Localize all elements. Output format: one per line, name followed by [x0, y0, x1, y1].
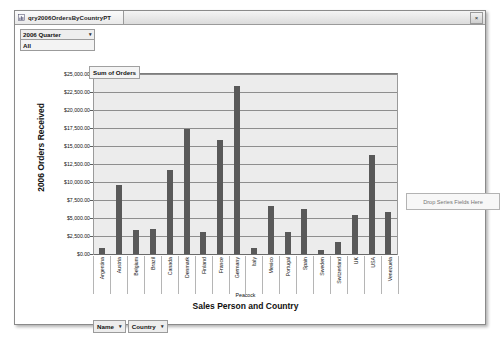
x-axis-category-label: Portugal — [285, 257, 291, 276]
bar[interactable] — [99, 248, 105, 254]
document-tab-label: qry2006OrdersByCountryPT — [28, 15, 111, 21]
x-axis-category-label: Austria — [116, 257, 122, 273]
pivotchart-icon — [18, 14, 25, 21]
x-axis-category-cell: Sweden — [314, 256, 331, 294]
y-axis-tick-label: $10,000.00 — [64, 179, 90, 185]
x-axis-category-cell: Venezuela — [382, 256, 399, 294]
bar[interactable] — [150, 229, 156, 254]
bar[interactable] — [234, 86, 240, 254]
bar-slot — [144, 74, 161, 254]
bar-series — [94, 74, 397, 254]
field-button-country[interactable]: Country▾ — [128, 320, 168, 333]
bar-slot — [195, 74, 212, 254]
bar[interactable] — [133, 230, 139, 254]
y-axis-tick-label: $12,500.00 — [64, 161, 90, 167]
x-axis-category-label: UK — [353, 257, 359, 264]
bar[interactable] — [335, 242, 341, 254]
x-axis-category-cell: Canada — [162, 256, 179, 294]
bar-slot — [94, 74, 111, 254]
x-axis-category-cell: France — [213, 256, 230, 294]
bar[interactable] — [116, 185, 122, 254]
bar[interactable] — [369, 155, 375, 254]
bar-slot — [229, 74, 246, 254]
chevron-down-icon[interactable]: ▾ — [159, 324, 164, 329]
bar-slot — [330, 74, 347, 254]
x-axis-category-label: Canada — [167, 257, 173, 275]
filter-field-header[interactable]: 2006 Quarter ▾ — [20, 29, 95, 40]
x-axis-category-label: Finland — [201, 257, 207, 274]
y-axis-tick-label: $7,500.00 — [67, 197, 90, 203]
filter-field-value[interactable]: All — [20, 40, 95, 51]
series-legend-title: Sum of Orders — [89, 66, 140, 79]
field-button-label: Name — [97, 323, 114, 330]
y-axis-tick-label: $22,500.00 — [64, 89, 90, 95]
bar[interactable] — [167, 170, 173, 254]
bar[interactable] — [200, 232, 206, 254]
x-axis-category-label: France — [218, 257, 224, 273]
x-axis-category-label: Brazil — [150, 257, 156, 270]
y-axis-tick-label: $5,000.00 — [67, 215, 90, 221]
x-axis-category-cell: Switzerland — [331, 256, 348, 294]
bar[interactable] — [285, 232, 291, 254]
bar-slot — [363, 74, 380, 254]
x-axis-category-cell: Mexico — [263, 256, 280, 294]
y-axis-tick-label: $0.00 — [77, 251, 90, 257]
bar-slot — [128, 74, 145, 254]
bar-slot — [380, 74, 397, 254]
document-tab[interactable]: qry2006OrdersByCountryPT — [15, 11, 124, 24]
y-axis-tick-label: $20,000.00 — [64, 107, 90, 113]
bar[interactable] — [184, 129, 190, 254]
x-axis-category-cell: UK — [348, 256, 365, 294]
y-axis-title: 2006 Orders Received — [36, 103, 50, 192]
bar-slot — [178, 74, 195, 254]
x-axis-category-cell: Argentina — [94, 256, 111, 294]
field-buttons-bar: Name▾Country▾ — [93, 320, 168, 333]
gridline — [94, 254, 397, 255]
pivotchart-window: qry2006OrdersByCountryPT × 2006 Quarter … — [14, 10, 486, 325]
x-axis-category-label: USA — [370, 257, 376, 268]
x-axis-group-label: Peacock — [93, 292, 398, 298]
bar[interactable] — [385, 212, 391, 254]
x-axis-category-label: Denmark — [184, 257, 190, 278]
x-axis-category-cell: Denmark — [179, 256, 196, 294]
bar[interactable] — [251, 248, 257, 254]
plot-background — [93, 73, 398, 255]
bar[interactable] — [318, 250, 324, 254]
y-axis-tick-label: $15,000.00 — [64, 143, 90, 149]
bar-slot — [262, 74, 279, 254]
x-axis-title: Sales Person and Country — [93, 301, 398, 311]
bar-slot — [279, 74, 296, 254]
x-axis-category-cell: USA — [365, 256, 382, 294]
y-axis-tick-label: $17,500.00 — [64, 125, 90, 131]
y-axis-tick-label: $2,500.00 — [67, 233, 90, 239]
x-axis-category-cell: Brazil — [145, 256, 162, 294]
bar-slot — [161, 74, 178, 254]
x-axis-category-cell: Belgium — [128, 256, 145, 294]
field-button-name[interactable]: Name▾ — [93, 320, 126, 333]
field-button-label: Country — [132, 323, 156, 330]
bar-slot — [313, 74, 330, 254]
bar-slot — [346, 74, 363, 254]
x-axis-category-cell: Austria — [111, 256, 128, 294]
plot-area[interactable] — [93, 73, 398, 255]
bar-slot — [245, 74, 262, 254]
x-axis-category-label: Mexico — [268, 257, 274, 273]
bar[interactable] — [268, 206, 274, 254]
chevron-down-icon[interactable]: ▾ — [117, 324, 122, 329]
bar[interactable] — [301, 209, 307, 254]
bar[interactable] — [217, 140, 223, 254]
close-icon[interactable]: × — [470, 12, 483, 24]
x-axis-category-cell: Italy — [246, 256, 263, 294]
x-axis-category-label: Argentina — [99, 257, 105, 279]
bar-slot — [212, 74, 229, 254]
bar[interactable] — [352, 215, 358, 254]
x-axis-category-cell: Spain — [297, 256, 314, 294]
drop-series-fields-zone[interactable]: Drop Series Fields Here — [406, 193, 500, 210]
x-axis-category-label: Venezuela — [387, 257, 393, 281]
chevron-down-icon[interactable]: ▾ — [87, 32, 92, 37]
page-filter: 2006 Quarter ▾ All — [20, 29, 95, 51]
y-axis-ticks: $25,000.00$22,500.00$20,000.00$17,500.00… — [51, 73, 93, 255]
x-axis-category-cell: Germany — [230, 256, 247, 294]
filter-field-label: 2006 Quarter — [23, 31, 87, 38]
